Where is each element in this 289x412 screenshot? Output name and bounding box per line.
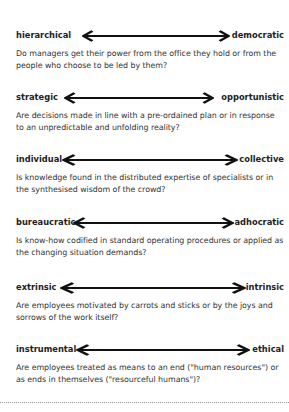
question-text: Are decisions made in line with a pre-or…	[16, 110, 284, 133]
double-headed-arrow-icon	[73, 217, 234, 229]
spectrum: individual collective	[16, 153, 284, 167]
label-right: collective	[239, 153, 284, 165]
label-right: democratic	[232, 29, 284, 41]
double-headed-arrow-icon	[76, 344, 250, 356]
spectrum: strategic opportunistic	[16, 91, 284, 105]
question-text: Are employees motivated by carrots and s…	[16, 300, 284, 323]
label-right: adhocratic	[235, 216, 284, 228]
label-right: ethical	[252, 343, 284, 355]
spectrum: hierarchical democratic	[16, 29, 284, 43]
dimension-extrinsic-intrinsic: extrinsic intrinsic Are employees motiva…	[16, 281, 284, 323]
label-right: intrinsic	[246, 281, 284, 293]
dimension-hierarchical-democratic: hierarchical democratic Do managers get …	[16, 29, 284, 71]
question-text: Is knowledge found in the distributed ex…	[16, 172, 284, 195]
question-text: Are employees treated as means to an end…	[16, 362, 284, 385]
label-left: individual	[16, 153, 62, 165]
question-text: Do managers get their power from the off…	[16, 48, 284, 71]
spectrum: bureaucratic adhocratic	[16, 216, 284, 230]
label-left: bureaucratic	[16, 216, 75, 228]
dimension-strategic-opportunistic: strategic opportunistic Are decisions ma…	[16, 91, 284, 133]
label-left: extrinsic	[16, 281, 57, 293]
spectrum: instrumental ethical	[16, 343, 284, 357]
dimension-individual-collective: individual collective Is knowledge found…	[16, 153, 284, 195]
double-headed-arrow-icon	[60, 282, 246, 294]
page: hierarchical democratic Do managers get …	[0, 0, 289, 412]
label-left: instrumental	[16, 343, 76, 355]
spectrum: extrinsic intrinsic	[16, 281, 284, 295]
dimension-bureaucratic-adhocratic: bureaucratic adhocratic Is know-how codi…	[16, 216, 284, 258]
question-text: Is know-how codified in standard operati…	[16, 235, 284, 258]
double-headed-arrow-icon	[62, 154, 238, 166]
double-headed-arrow-icon	[64, 92, 214, 104]
label-left: strategic	[16, 91, 58, 103]
label-left: hierarchical	[16, 29, 71, 41]
label-right: opportunistic	[221, 91, 284, 103]
double-headed-arrow-icon	[82, 30, 230, 42]
dotted-divider	[0, 402, 289, 403]
dimension-instrumental-ethical: instrumental ethical Are employees treat…	[16, 343, 284, 385]
